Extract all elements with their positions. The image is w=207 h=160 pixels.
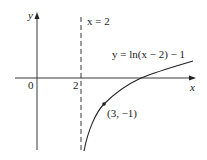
- origin-label: 0: [28, 79, 34, 91]
- function-label: y = ln(x − 2) − 1: [112, 48, 185, 61]
- y-axis-label: y: [27, 9, 33, 21]
- x-axis-label: x: [189, 81, 195, 93]
- x-axis-arrow-icon: [189, 76, 196, 81]
- function-curve: [84, 61, 193, 151]
- point-label: (3, −1): [107, 107, 137, 120]
- y-axis-arrow-icon: [35, 12, 40, 19]
- tick-label-2: 2: [73, 79, 79, 91]
- graph: y x 0 2 x = 2 y = ln(x − 2) − 1 (3, −1): [0, 0, 207, 160]
- point-marker: [102, 102, 106, 106]
- asymptote-label: x = 2: [87, 15, 110, 27]
